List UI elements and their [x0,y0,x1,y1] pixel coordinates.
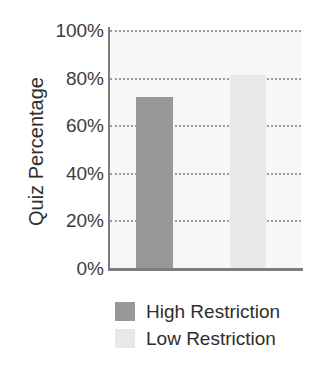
x-axis-line [108,268,303,271]
y-axis-tick-label: 80% [36,68,104,87]
legend-swatch-icon [115,302,135,321]
legend-label: Low Restriction [146,328,276,350]
y-axis-tick-label: 20% [36,211,104,230]
y-axis-tick-label: 0% [36,259,104,278]
legend-swatch-icon [115,329,135,348]
bar-low-restriction [230,75,266,268]
plot-area [110,30,301,268]
legend-item: Low Restriction [115,325,315,352]
legend-label: High Restriction [146,301,280,323]
legend-item: High Restriction [115,298,315,325]
y-axis-tick-label: 40% [36,163,104,182]
gridline [110,78,301,80]
y-axis-tick-label: 100% [36,21,104,40]
y-axis-tick-label: 60% [36,116,104,135]
gridline [110,30,301,32]
y-axis-tick-labels: 100%80%60%40%20%0% [36,30,104,268]
bar-high-restriction [136,97,173,268]
chart-legend: High RestrictionLow Restriction [115,298,315,352]
bar-chart: Quiz Percentage 100%80%60%40%20%0% High … [0,0,321,366]
